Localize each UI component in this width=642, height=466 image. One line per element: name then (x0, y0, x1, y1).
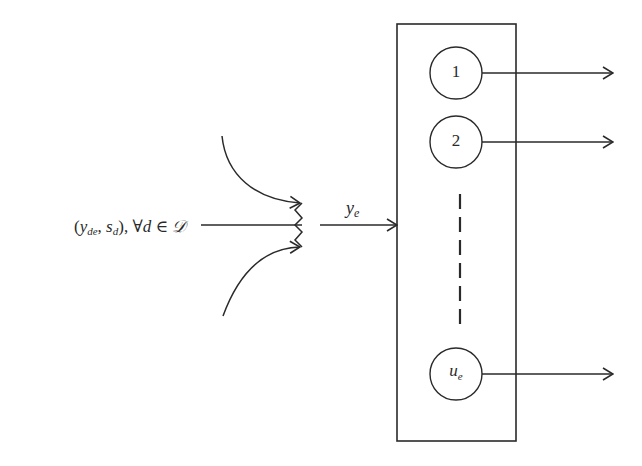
unit-label-2: 2 (430, 131, 482, 151)
merged-flow-label: ye (346, 198, 359, 221)
unit-label-1: 1 (430, 62, 482, 82)
input-flows-label: (yde, sd), ∀d ∈ 𝒟 (74, 216, 186, 237)
lower-incoming-curve (223, 247, 300, 316)
unit-label-ue: ue (430, 361, 482, 382)
upper-incoming-curve (222, 136, 300, 203)
